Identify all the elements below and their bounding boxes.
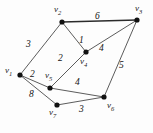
graph-vertex-v1 — [17, 72, 22, 77]
graph-vertex-v6 — [101, 94, 106, 99]
edge-layer — [20, 20, 137, 105]
graph-canvas — [0, 0, 153, 133]
graph-vertex-v7 — [54, 102, 59, 107]
graph-edge-v1-v5 — [20, 75, 50, 88]
graph-vertex-v3 — [134, 17, 139, 22]
graph-vertex-v4 — [83, 49, 88, 54]
graph-edge-v2-v4 — [62, 22, 86, 52]
graph-edge-v3-v4 — [86, 20, 137, 52]
graph-edge-v1-v2 — [20, 22, 62, 75]
graph-vertex-v2 — [59, 19, 64, 24]
graph-edge-v6-v7 — [57, 97, 104, 105]
vertex-layer — [17, 17, 139, 107]
graph-vertex-v5 — [47, 85, 52, 90]
weighted-graph-figure: 3614522483v1v2v3v4v5v6v7 — [0, 0, 153, 133]
graph-edge-v4-v5 — [50, 52, 86, 88]
graph-edge-v3-v6 — [104, 20, 137, 97]
graph-edge-v2-v3 — [62, 20, 137, 22]
graph-edge-v5-v6 — [50, 88, 104, 97]
